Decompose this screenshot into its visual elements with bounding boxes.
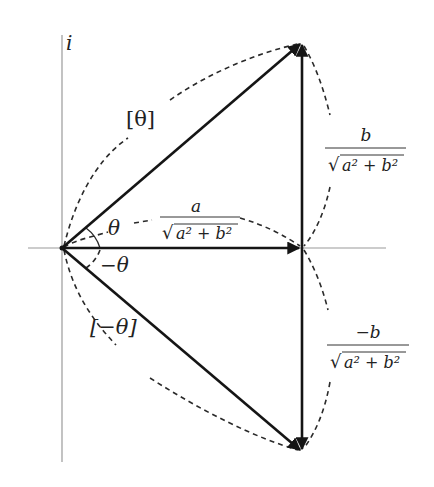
- real-part-denominator: a² + b²: [176, 224, 232, 243]
- neg-imag-part-denominator: a² + b²: [344, 353, 400, 372]
- complex-vector-diagram: i [θ] θ −θ [−θ] a √ a² + b² b √ a² + b² …: [0, 0, 434, 487]
- origin-point: [60, 246, 65, 251]
- neg-imag-part-numerator: −b: [355, 322, 380, 342]
- real-part-arc-right: [240, 218, 300, 246]
- imag-part-fraction: b √ a² + b²: [325, 125, 406, 175]
- neg-theta-angle-arc: [86, 250, 100, 268]
- imag-part-arc-upper: [304, 46, 330, 115]
- imag-part-denominator: a² + b²: [342, 156, 398, 175]
- real-part-fraction: a √ a² + b²: [160, 196, 240, 243]
- theta-angle-label: θ: [108, 216, 120, 240]
- theta-angle-arc: [86, 228, 100, 248]
- theta-vector-arc-upper: [170, 44, 298, 100]
- neg-theta-vector-label: [−θ]: [90, 315, 137, 339]
- imaginary-axis-label: i: [66, 31, 72, 55]
- real-part-arc-mid: [134, 220, 152, 223]
- theta-vector-label: [θ]: [126, 107, 155, 131]
- real-part-root: √: [162, 222, 174, 243]
- real-part-numerator: a: [191, 196, 201, 216]
- neg-theta-vector-arc-lower: [150, 378, 298, 450]
- neg-imag-part-arc-upper: [304, 250, 328, 310]
- neg-theta-vector: [62, 248, 300, 450]
- imag-part-numerator: b: [361, 125, 372, 145]
- neg-imag-part-root: √: [330, 351, 342, 372]
- imag-part-arc-lower: [304, 187, 330, 246]
- neg-theta-angle-label: −θ: [100, 253, 129, 277]
- neg-imag-part-fraction: −b √ a² + b²: [327, 322, 409, 372]
- neg-imag-part-arc-lower: [304, 382, 330, 448]
- imag-part-root: √: [328, 154, 340, 175]
